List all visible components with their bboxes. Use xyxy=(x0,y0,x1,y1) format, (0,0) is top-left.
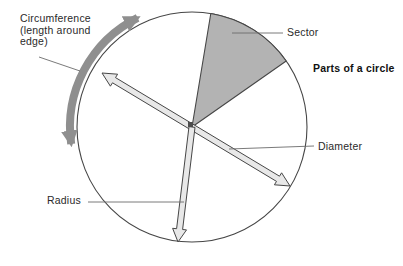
radius-label: Radius xyxy=(47,195,81,207)
parts-of-a-circle-diagram: Circumference (length around edge) Secto… xyxy=(0,0,403,266)
sector-label: Sector xyxy=(287,27,319,39)
circumference-label: Circumference (length around edge) xyxy=(20,13,91,48)
circumference-leader-line xyxy=(39,57,80,71)
center-point xyxy=(188,122,193,127)
circumference-label-line3: edge) xyxy=(20,36,91,48)
diagram-title: Parts of a circle xyxy=(313,62,395,74)
diameter-label: Diameter xyxy=(318,141,362,153)
circumference-label-line1: Circumference xyxy=(20,13,91,25)
